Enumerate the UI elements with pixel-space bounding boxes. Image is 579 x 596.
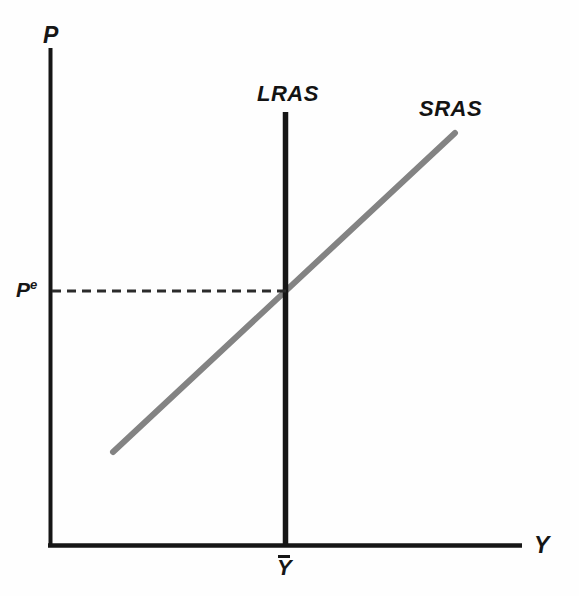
potential-output-overbar-text: Y bbox=[277, 555, 292, 579]
potential-output-tick-label: Y bbox=[277, 555, 292, 579]
lras-curve-label: LRAS bbox=[257, 83, 319, 105]
sras-curve-label: SRAS bbox=[419, 98, 482, 120]
y-axis-label: P bbox=[43, 24, 58, 47]
equilibrium-price-base: P bbox=[16, 278, 30, 301]
as-diagram-figure: P Y Pe Y LRAS SRAS bbox=[0, 0, 579, 596]
x-axis-label: Y bbox=[534, 534, 549, 557]
equilibrium-price-superscript: e bbox=[30, 277, 37, 292]
equilibrium-price-tick-label: Pe bbox=[16, 279, 37, 300]
